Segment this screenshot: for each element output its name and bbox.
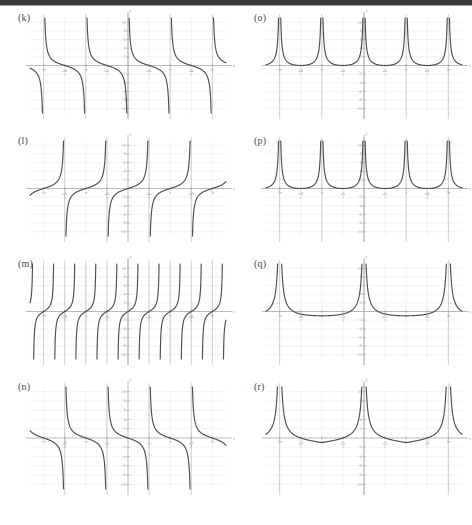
svg-text:3π: 3π [426, 68, 430, 72]
svg-text:2: 2 [64, 319, 66, 323]
svg-text:10: 10 [122, 21, 126, 25]
svg-text:10: 10 [122, 390, 126, 394]
svg-text:3π: 3π [190, 191, 194, 195]
svg-text:-8: -8 [359, 98, 362, 102]
svg-text:3π: 3π [426, 440, 430, 444]
svg-text:2π: 2π [447, 314, 451, 318]
svg-text:8: 8 [360, 29, 362, 33]
svg-text:-2π: -2π [277, 191, 282, 195]
svg-text:2: 2 [124, 301, 126, 305]
svg-text:y: y [130, 132, 132, 136]
svg-text:3π: 3π [426, 191, 430, 195]
svg-text:π: π [384, 68, 386, 72]
svg-text:-4: -4 [123, 204, 126, 208]
svg-text:2: 2 [106, 73, 108, 77]
svg-text:2π: 2π [447, 440, 451, 444]
panel-r: (r) -2π-3π2-π-π2π2π3π22π-10-8-6-4-224681… [236, 375, 472, 505]
svg-text:2π: 2π [211, 314, 215, 318]
svg-text:3π: 3π [190, 68, 194, 72]
svg-text:-10: -10 [357, 230, 362, 234]
svg-text:-2: -2 [359, 318, 362, 322]
svg-text:-2π: -2π [277, 68, 282, 72]
svg-text:2π: 2π [447, 68, 451, 72]
svg-text:2: 2 [64, 445, 66, 449]
svg-text:2: 2 [106, 319, 108, 323]
svg-text:2: 2 [148, 73, 150, 77]
svg-text:x: x [469, 64, 471, 68]
svg-text:π: π [405, 191, 407, 195]
svg-text:-3π: -3π [63, 314, 68, 318]
svg-text:-6: -6 [359, 464, 362, 468]
svg-text:-π: -π [342, 440, 345, 444]
panel-p: (p) -2π-3π2-π-π2π2π3π22π-10-8-6-4-224681… [236, 129, 472, 252]
svg-text:-10: -10 [121, 230, 126, 234]
svg-text:π: π [148, 440, 150, 444]
panel-k: (k) -2π-3π2-π-π2π2π3π22π-10-8-6-4-224681… [0, 6, 236, 129]
svg-text:-π: -π [106, 440, 109, 444]
svg-text:8: 8 [124, 29, 126, 33]
svg-text:2: 2 [384, 73, 386, 77]
svg-text:-2π: -2π [41, 191, 46, 195]
svg-text:-4: -4 [359, 81, 362, 85]
plot-svg-r: -2π-3π2-π-π2π2π3π22π-10-8-6-4-2246810xy [236, 375, 472, 505]
svg-text:x: x [233, 437, 235, 441]
svg-text:2: 2 [190, 319, 192, 323]
svg-text:y: y [130, 9, 132, 13]
svg-text:x: x [469, 437, 471, 441]
svg-text:2: 2 [426, 319, 428, 323]
svg-text:2π: 2π [447, 191, 451, 195]
svg-text:3π: 3π [190, 314, 194, 318]
svg-text:-6: -6 [359, 213, 362, 217]
svg-text:x: x [233, 310, 235, 314]
svg-text:2: 2 [190, 445, 192, 449]
svg-text:π: π [384, 191, 386, 195]
svg-text:2π: 2π [211, 191, 215, 195]
svg-text:2: 2 [426, 445, 428, 449]
panel-q: (q) -2π-3π2-π-π2π2π3π22π-10-8-6-4-224681… [236, 252, 472, 375]
panel-l: (l) -2π-3π2-π-π2π2π3π22π-10-8-6-4-224681… [0, 129, 236, 252]
figure-panel-grid: (k) -2π-3π2-π-π2π2π3π22π-10-8-6-4-224681… [0, 6, 472, 522]
svg-text:4: 4 [124, 169, 126, 173]
svg-text:6: 6 [124, 408, 126, 412]
plot-svg-n: -2π-3π2-π-π2π2π3π22π-10-8-6-4-2246810xy [0, 375, 236, 505]
svg-text:π: π [148, 191, 150, 195]
svg-text:π: π [169, 191, 171, 195]
plot-area-m: -2π-3π2-π-π2π2π3π22π-10-8-6-4-2246810xy [0, 252, 236, 375]
svg-text:π: π [405, 68, 407, 72]
svg-text:10: 10 [358, 21, 362, 25]
svg-text:-8: -8 [359, 473, 362, 477]
svg-text:2: 2 [124, 178, 126, 182]
plot-area-l: -2π-3π2-π-π2π2π3π22π-10-8-6-4-2246810xy [0, 129, 236, 252]
svg-text:-2: -2 [359, 195, 362, 199]
svg-text:-2: -2 [123, 318, 126, 322]
svg-text:2: 2 [426, 196, 428, 200]
svg-text:-3π: -3π [299, 68, 304, 72]
svg-text:2π: 2π [211, 68, 215, 72]
svg-text:-10: -10 [357, 107, 362, 111]
svg-text:-10: -10 [357, 353, 362, 357]
svg-text:10: 10 [122, 267, 126, 271]
svg-text:π: π [169, 314, 171, 318]
svg-text:-π: -π [342, 68, 345, 72]
svg-text:-4: -4 [123, 327, 126, 331]
svg-text:-3π: -3π [299, 440, 304, 444]
svg-text:-10: -10 [121, 483, 126, 487]
svg-text:2: 2 [300, 445, 302, 449]
svg-text:2: 2 [300, 319, 302, 323]
svg-text:-2: -2 [123, 445, 126, 449]
svg-text:2: 2 [106, 196, 108, 200]
svg-text:-3π: -3π [63, 191, 68, 195]
plot-area-n: -2π-3π2-π-π2π2π3π22π-10-8-6-4-2246810xy [0, 375, 236, 505]
svg-text:x: x [233, 64, 235, 68]
svg-text:2: 2 [148, 196, 150, 200]
svg-text:-3π: -3π [63, 68, 68, 72]
svg-text:y: y [366, 132, 368, 136]
svg-text:8: 8 [124, 152, 126, 156]
plot-area-p: -2π-3π2-π-π2π2π3π22π-10-8-6-4-2246810xy [236, 129, 472, 252]
svg-text:-2: -2 [123, 195, 126, 199]
svg-text:-π: -π [320, 191, 323, 195]
svg-text:x: x [469, 187, 471, 191]
svg-text:-8: -8 [123, 221, 126, 225]
svg-text:-6: -6 [359, 336, 362, 340]
svg-text:π: π [148, 314, 150, 318]
